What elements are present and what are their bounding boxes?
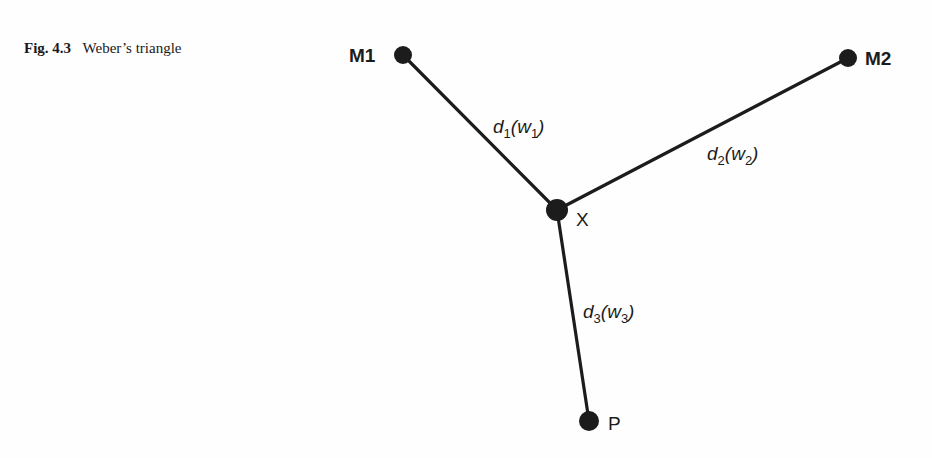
node-label-m1: M1 xyxy=(349,45,376,66)
node-p xyxy=(579,411,599,431)
node-label-m2: M2 xyxy=(865,48,891,69)
edge-label-d2-w2: d2(w2) xyxy=(707,143,758,168)
figure-page: Fig. 4.3 Weber’s triangle M1 M2 X P d1(w… xyxy=(0,0,932,458)
node-label-x: X xyxy=(576,209,589,230)
edge-label-d3-w3: d3(w3) xyxy=(583,301,634,326)
node-x xyxy=(546,199,568,221)
node-m2 xyxy=(839,49,857,67)
edge-label-d1-w1: d1(w1) xyxy=(493,116,544,141)
weber-triangle-diagram: M1 M2 X P d1(w1) d2(w2) d3(w3) xyxy=(0,0,932,458)
node-label-p: P xyxy=(608,413,621,434)
edge-m2-x xyxy=(557,58,848,210)
node-m1 xyxy=(394,46,412,64)
